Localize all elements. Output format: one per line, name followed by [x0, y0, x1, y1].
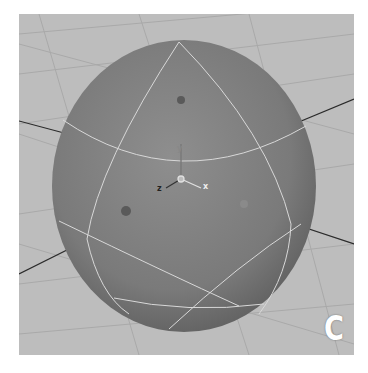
axis-label-y: y — [177, 144, 182, 153]
3d-viewport[interactable]: x y z C — [19, 14, 354, 355]
sphere — [52, 40, 316, 332]
scene — [19, 14, 354, 355]
panel-label: C — [324, 311, 344, 345]
axis-label-x: x — [203, 182, 208, 191]
axis-label-z: z — [157, 184, 162, 193]
